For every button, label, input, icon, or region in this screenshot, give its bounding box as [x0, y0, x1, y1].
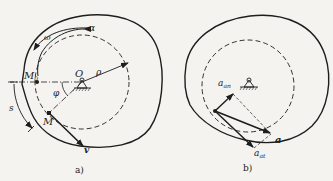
a-an-label: aan — [218, 78, 231, 89]
trajectory-circle-b — [202, 40, 294, 132]
rho-label: ρ — [95, 67, 102, 77]
phi-arc — [62, 82, 68, 96]
alpha-arc — [34, 28, 88, 50]
figure-b: aan a aat b) — [185, 15, 329, 173]
rho-arrow — [82, 63, 128, 82]
construction-line-1 — [233, 94, 271, 134]
m-label: M — [42, 116, 54, 127]
point-m — [47, 111, 51, 115]
velocity-vector — [49, 113, 83, 146]
rigid-body-outline-b — [185, 15, 329, 142]
diagram-canvas: α ω M0 O ρ φ s M v a) aan a aat — [0, 0, 333, 181]
pivot-support-icon — [73, 78, 91, 91]
figure-a: α ω M0 O ρ φ s M v a) — [8, 15, 162, 175]
pivot-support-icon — [240, 78, 258, 90]
caption-b: b) — [243, 163, 252, 173]
a-at-label: aat — [254, 148, 266, 159]
origin-label: O — [75, 68, 83, 79]
construction-line-2 — [254, 134, 271, 148]
a-label: a — [275, 134, 281, 145]
m0-label: M0 — [23, 70, 38, 82]
phi-label: φ — [53, 88, 60, 98]
s-label: s — [9, 103, 14, 113]
point-m-b — [213, 109, 217, 113]
tangential-acceleration-vector — [215, 111, 253, 147]
v-label: v — [84, 145, 90, 155]
normal-acceleration-vector — [215, 94, 233, 111]
total-acceleration-vector — [215, 111, 270, 133]
alpha-label: α — [89, 23, 95, 33]
omega-label: ω — [44, 33, 51, 42]
caption-a: a) — [75, 165, 84, 175]
